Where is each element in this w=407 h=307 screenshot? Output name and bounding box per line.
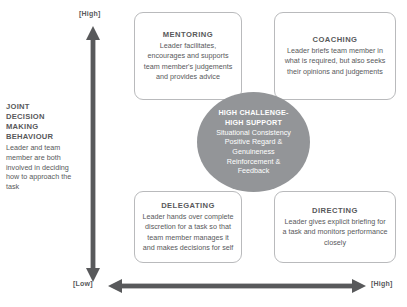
centre-circle-body: Situational ConsistencyPositive Regard &… [216,128,291,176]
double-headed-up-down-arrow-icon [83,26,103,282]
quadrant-directing-title: DIRECTING [312,206,358,215]
quadrant-mentoring-description: Leader facilitates, encourages and suppo… [142,41,234,82]
quadrant-mentoring[interactable]: MENTORING Leader facilitates, encourages… [134,12,242,100]
quadrant-mentoring-title: MENTORING [163,30,213,39]
vertical-axis-high-label: [High] [79,10,100,17]
quadrant-coaching-description: Leader briefs team member in what is req… [282,46,388,77]
quadrant-delegating-description: Leader hands over complete discretion fo… [142,212,234,253]
quadrant-coaching-title: COACHING [313,35,358,44]
horizontal-axis-low-label: [Low] [73,280,93,287]
quadrant-delegating[interactable]: DELEGATING Leader hands over complete di… [134,191,242,263]
vertical-axis-heading: JOINTDECISIONMAKINGBEHAVIOUR [6,102,78,142]
horizontal-axis-high-label: [High] [371,280,392,287]
quadrant-delegating-title: DELEGATING [161,201,215,210]
double-headed-left-right-arrow-icon [108,276,366,296]
quadrant-directing-description: Leader gives explicit briefing for a tas… [282,217,388,248]
centre-circle: HIGH CHALLENGE-HIGH SUPPORT Situational … [197,92,310,192]
diagram-canvas: [High] [Low] [High] JOINTDECISIONMAKINGB… [0,0,407,307]
vertical-axis-body: Leader and team member are both involved… [6,143,78,191]
quadrant-directing[interactable]: DIRECTING Leader gives explicit briefing… [274,191,396,263]
quadrant-coaching[interactable]: COACHING Leader briefs team member in wh… [274,12,396,100]
vertical-axis-description: JOINTDECISIONMAKINGBEHAVIOUR Leader and … [6,102,78,191]
centre-circle-title: HIGH CHALLENGE-HIGH SUPPORT [218,108,288,126]
